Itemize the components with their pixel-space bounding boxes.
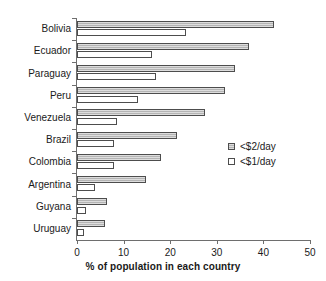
bar-paraguay-series-0 bbox=[77, 65, 235, 72]
bar-colombia-series-1 bbox=[77, 162, 114, 169]
bar-guyana-series-1 bbox=[77, 207, 86, 214]
legend-label-1: <$1/day bbox=[240, 156, 276, 167]
bar-row bbox=[77, 62, 310, 84]
bar-row bbox=[77, 196, 310, 218]
bar-paraguay-series-1 bbox=[77, 73, 156, 80]
bar-row bbox=[77, 107, 310, 129]
legend-swatch-icon-0 bbox=[228, 143, 235, 150]
x-tick-label-0: 0 bbox=[57, 247, 97, 259]
bar-venezuela-series-1 bbox=[77, 118, 117, 125]
x-tick-label-40: 40 bbox=[243, 247, 283, 259]
bar-bolivia-series-0 bbox=[77, 21, 274, 28]
x-tick-label-50: 50 bbox=[290, 247, 326, 259]
bar-uruguay-series-1 bbox=[77, 229, 84, 236]
x-tick bbox=[310, 240, 311, 244]
x-tick-label-30: 30 bbox=[197, 247, 237, 259]
bar-argentina-series-0 bbox=[77, 176, 146, 183]
x-axis-title: % of population in each country bbox=[0, 261, 326, 272]
x-tick bbox=[217, 240, 218, 244]
chart-legend: <$2/day<$1/day bbox=[228, 139, 276, 169]
bar-row bbox=[77, 40, 310, 62]
bar-row bbox=[77, 85, 310, 107]
bar-row bbox=[77, 173, 310, 195]
legend-label-0: <$2/day bbox=[240, 141, 276, 152]
x-tick-label-20: 20 bbox=[150, 247, 190, 259]
bar-venezuela-series-0 bbox=[77, 109, 205, 116]
bar-row bbox=[77, 18, 310, 40]
x-tick bbox=[263, 240, 264, 244]
bar-ecuador-series-0 bbox=[77, 43, 249, 50]
x-tick bbox=[170, 240, 171, 244]
legend-item-1: <$1/day bbox=[228, 154, 276, 169]
bar-ecuador-series-1 bbox=[77, 51, 152, 58]
plot-area bbox=[77, 18, 310, 240]
bar-brazil-series-0 bbox=[77, 132, 177, 139]
x-tick bbox=[124, 240, 125, 244]
legend-swatch-icon-1 bbox=[228, 158, 235, 165]
legend-item-0: <$2/day bbox=[228, 139, 276, 154]
bar-colombia-series-0 bbox=[77, 154, 161, 161]
bar-chart: BoliviaEcuadorParaguayPeruVenezuelaBrazi… bbox=[0, 0, 326, 281]
bar-brazil-series-1 bbox=[77, 140, 114, 147]
bar-row-group bbox=[77, 18, 310, 240]
bar-argentina-series-1 bbox=[77, 184, 95, 191]
bar-uruguay-series-0 bbox=[77, 220, 105, 227]
bar-peru-series-0 bbox=[77, 87, 225, 94]
x-tick bbox=[77, 240, 78, 244]
bar-peru-series-1 bbox=[77, 96, 138, 103]
x-tick-label-10: 10 bbox=[104, 247, 144, 259]
bar-bolivia-series-1 bbox=[77, 29, 186, 36]
bar-guyana-series-0 bbox=[77, 198, 107, 205]
bar-row bbox=[77, 218, 310, 240]
